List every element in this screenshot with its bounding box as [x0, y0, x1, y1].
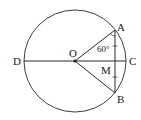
label-o: O [69, 47, 77, 59]
center-point-o [73, 59, 76, 62]
label-m: M [101, 64, 111, 76]
circle-geometry-diagram: A B C D O M 60° [0, 0, 141, 120]
label-a: A [117, 21, 125, 33]
angle-arc-a [110, 34, 115, 36]
label-d: D [13, 55, 21, 67]
angle-label: 60° [97, 44, 110, 54]
label-b: B [117, 93, 124, 105]
label-c: C [129, 55, 136, 67]
